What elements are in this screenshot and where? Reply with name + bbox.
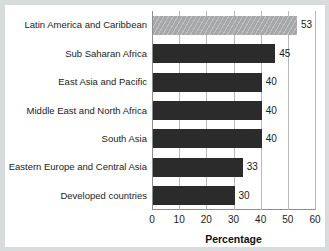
category-label: Developed countries [60,191,147,201]
category-label: Sub Saharan Africa [65,49,147,59]
x-tick-label-40: 40 [249,215,273,225]
bar-row: 33 [153,158,316,177]
x-tick-label-10: 10 [167,215,191,225]
bar-value-label: 40 [266,77,277,87]
chart-screenshot: 53454040403330 Latin America and Caribbe… [0,0,329,251]
category-label: Eastern Europe and Central Asia [9,163,147,173]
bar [153,129,262,148]
category-label: Middle East and North Africa [27,106,147,116]
frame-right-edge [325,0,329,251]
bar-value-label: 33 [247,162,258,172]
x-tick-label-20: 20 [194,215,218,225]
bar [153,101,262,120]
bar [153,73,262,92]
x-tick-label-60: 60 [303,215,327,225]
bar [153,16,297,35]
category-label: Latin America and Caribbean [24,20,147,30]
bar [153,158,243,177]
category-label: South Asia [102,134,147,144]
bar-value-label: 40 [266,106,277,116]
bar-value-label: 30 [239,191,250,201]
chart-canvas: 53454040403330 Latin America and Caribbe… [5,5,325,247]
bar-row: 40 [153,101,316,120]
bar-value-label: 40 [266,134,277,144]
frame-bottom-edge [0,247,329,251]
x-axis-title: Percentage [152,234,315,245]
x-tick-label-0: 0 [140,215,164,225]
bar-row: 40 [153,73,316,92]
x-tick-label-30: 30 [222,215,246,225]
bar-row: 40 [153,129,316,148]
bar [153,44,275,63]
category-label: East Asia and Pacific [58,77,147,87]
bar [153,186,235,205]
bar-row: 45 [153,44,316,63]
x-tick-label-50: 50 [276,215,300,225]
bar-row: 53 [153,16,316,35]
plot-area: 53454040403330 [152,11,315,210]
bar-value-label: 53 [301,20,312,30]
bar-value-label: 45 [279,49,290,59]
bar-row: 30 [153,186,316,205]
